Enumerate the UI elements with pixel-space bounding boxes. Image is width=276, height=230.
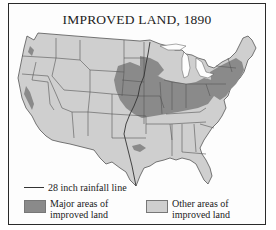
line-swatch-icon [24,187,44,188]
legend-rainfall-line: 28 inch rainfall line [24,182,127,193]
legend-other-line2: improved land [172,209,230,220]
major-area-northeast [210,58,244,100]
legend-major-line1: Major areas of [50,198,108,209]
legend-major: Major areas of improved land [24,198,108,220]
legend-other-line1: Other areas of [172,198,230,209]
us-map [0,0,276,230]
other-swatch-icon [146,200,168,213]
major-area-dakota [134,70,137,75]
legend-other: Other areas of improved land [146,198,230,220]
legend-major-line2: improved land [50,209,108,220]
major-swatch-icon [24,200,46,213]
legend-rainfall-label: 28 inch rainfall line [48,182,127,193]
